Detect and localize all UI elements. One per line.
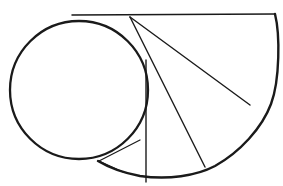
chord-short-lower-left	[99, 161, 123, 172]
horizontal-tangent-line	[72, 14, 275, 15]
chord-to-lower-right-arc	[130, 17, 205, 167]
base-circle	[10, 21, 148, 159]
geometric-figure	[0, 0, 283, 186]
geometry-canvas	[0, 0, 283, 186]
chord-to-tangent-point	[99, 140, 140, 161]
